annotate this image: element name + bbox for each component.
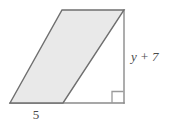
geometry-figure-container: 5 y + 7 xyxy=(0,0,170,128)
height-length-label: y + 7 xyxy=(129,49,159,64)
geometry-figure-svg: 5 y + 7 xyxy=(0,0,170,128)
base-length-label: 5 xyxy=(33,107,40,122)
